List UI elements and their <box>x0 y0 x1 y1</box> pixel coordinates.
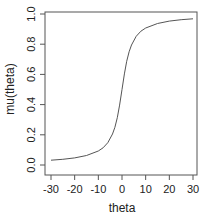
y-axis: 0.00.20.40.60.81.0 <box>25 6 45 172</box>
x-axis: -30-20-100102030 <box>43 175 199 195</box>
series-line <box>51 19 193 160</box>
x-tick-label: -10 <box>90 183 106 195</box>
x-tick-label: 10 <box>140 183 152 195</box>
x-axis-title: theta <box>109 201 136 215</box>
y-tick-label: 0.0 <box>25 157 37 172</box>
chart: 0.00.20.40.60.81.0 -30-20-100102030 thet… <box>0 0 206 222</box>
y-axis-title: mu(theta) <box>3 63 17 114</box>
x-tick-label: -30 <box>43 183 59 195</box>
y-tick-label: 0.8 <box>25 37 37 52</box>
x-tick-label: 0 <box>119 183 125 195</box>
x-tick-label: -20 <box>67 183 83 195</box>
y-tick-label: 0.4 <box>25 97 37 112</box>
x-tick-label: 20 <box>163 183 175 195</box>
y-tick-label: 1.0 <box>25 6 37 21</box>
y-tick-label: 0.2 <box>25 127 37 142</box>
x-tick-label: 30 <box>187 183 199 195</box>
y-tick-label: 0.6 <box>25 67 37 82</box>
